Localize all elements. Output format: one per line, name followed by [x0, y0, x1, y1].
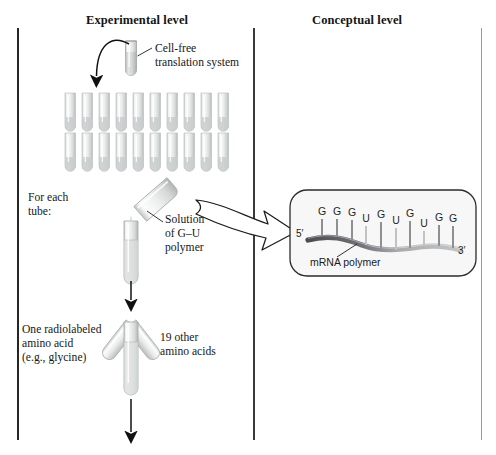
test-tube: [184, 93, 195, 131]
radiolabeled-amino-acid-label: One radiolabeled amino acid (e.g., glyci…: [22, 323, 102, 366]
y-tube-junction: [100, 320, 163, 395]
test-tube: [201, 93, 212, 131]
svg-text:G: G: [333, 205, 341, 217]
test-tube: [116, 93, 127, 131]
test-tube: [150, 93, 161, 131]
test-tube: [99, 93, 110, 131]
test-tube: [218, 133, 229, 171]
concept-link-block-arrow: [196, 200, 296, 250]
figure-canvas: Experimental level Conceptual level: [0, 0, 496, 455]
test-tube: [133, 93, 144, 131]
test-tube: [150, 133, 161, 171]
svg-text:G: G: [406, 207, 414, 219]
svg-text:G: G: [348, 206, 356, 218]
svg-text:G: G: [435, 211, 443, 223]
test-tube: [184, 133, 195, 171]
test-tube: [116, 133, 127, 171]
diagram-artwork: G G G U G U G U G G: [0, 0, 496, 455]
test-tube: [167, 133, 178, 171]
cell-free-translation-tube: [126, 41, 137, 76]
receiving-tube: [124, 221, 138, 284]
cell-free-leader-line: [138, 48, 153, 56]
test-tube: [99, 133, 110, 171]
test-tube: [65, 133, 76, 171]
gu-polymer-solution-label: Solution of G–U polymer: [165, 213, 204, 256]
other-amino-acids-label: 19 other amino acids: [160, 331, 216, 359]
svg-text:U: U: [392, 214, 400, 226]
three-prime-label: 3′: [458, 245, 465, 256]
droplet: [130, 216, 132, 221]
test-tube: [82, 93, 93, 131]
cell-free-label: Cell-free translation system: [155, 42, 239, 70]
tube-rack-row-2: [65, 133, 229, 171]
svg-text:G: G: [318, 205, 326, 217]
test-tube: [65, 93, 76, 131]
test-tube: [201, 133, 212, 171]
for-each-tube-label: For each tube:: [28, 191, 68, 219]
five-prime-label: 5′: [296, 228, 303, 239]
tube-rack-row-1: [65, 93, 229, 131]
svg-text:G: G: [449, 212, 457, 224]
test-tube: [133, 133, 144, 171]
test-tube: [82, 133, 93, 171]
svg-text:G: G: [377, 208, 385, 220]
svg-text:U: U: [362, 212, 370, 224]
test-tube: [167, 93, 178, 131]
test-tube: [218, 93, 229, 131]
svg-text:U: U: [420, 217, 428, 229]
mrna-polymer-label: mRNA polymer: [310, 256, 381, 268]
pour-arrow-to-rack: [97, 40, 130, 76]
